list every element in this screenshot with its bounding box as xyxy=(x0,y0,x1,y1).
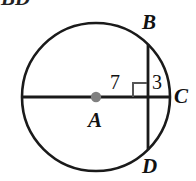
right-angle-marker xyxy=(133,83,147,97)
segment-length-7: 7 xyxy=(110,72,120,92)
point-label-a: A xyxy=(88,110,102,131)
point-label-d: D xyxy=(142,156,157,177)
figure-canvas: BD B C D A 7 3 xyxy=(0,0,196,181)
point-label-b: B xyxy=(142,12,156,33)
segment-length-3: 3 xyxy=(152,72,162,92)
geometry-svg xyxy=(0,0,196,181)
center-point-dot xyxy=(91,92,101,102)
point-label-c: C xyxy=(174,86,188,107)
